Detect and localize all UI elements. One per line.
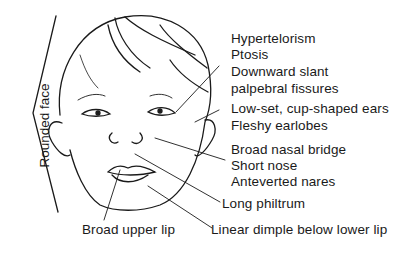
label-long-philtrum: Long philtrum bbox=[222, 196, 305, 212]
face-illustration bbox=[0, 0, 409, 253]
label-hypertelorism: Hypertelorism bbox=[231, 31, 316, 47]
label-fleshy-earlobes: Fleshy earlobes bbox=[231, 118, 328, 134]
label-low-set-ears: Low-set, cup-shaped ears bbox=[231, 101, 389, 117]
label-short-nose: Short nose bbox=[231, 158, 297, 174]
label-broad-upper-lip: Broad upper lip bbox=[82, 222, 175, 238]
label-broad-nasal-bridge: Broad nasal bridge bbox=[231, 142, 346, 158]
upper-lip bbox=[108, 166, 155, 175]
label-linear-dimple: Linear dimple below lower lip bbox=[211, 222, 387, 238]
left-ear bbox=[49, 122, 70, 156]
label-palpebral-fissures: palpebral fissures bbox=[231, 81, 339, 97]
label-downward-slant: Downward slant bbox=[231, 64, 328, 80]
rounded-face-label: Rounded face bbox=[37, 83, 52, 167]
nose bbox=[110, 133, 143, 143]
label-anteverted-nares: Anteverted nares bbox=[231, 174, 335, 190]
label-ptosis: Ptosis bbox=[231, 47, 268, 63]
